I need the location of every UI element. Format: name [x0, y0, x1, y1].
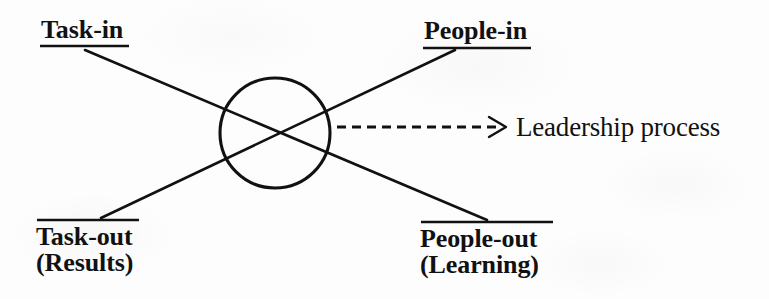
people-in-text: People-in: [424, 18, 527, 45]
task-out-text: Task-out: [36, 224, 133, 251]
leadership-process-label: Leadership process: [516, 112, 720, 143]
people-out-text: People-out: [420, 226, 539, 253]
connector-task-in-to-people-out: [85, 50, 487, 220]
connector-people-in-to-task-out: [101, 50, 455, 218]
node-label-people-out: People-out (Learning): [420, 226, 539, 278]
node-label-task-out: Task-out (Results): [36, 224, 133, 276]
node-label-people-in: People-in: [424, 18, 527, 45]
task-out-subtext: (Results): [36, 250, 133, 277]
node-label-task-in: Task-in: [41, 17, 123, 44]
center-circle: [220, 78, 330, 188]
task-in-text: Task-in: [41, 17, 123, 44]
people-out-subtext: (Learning): [420, 252, 539, 279]
diagram-canvas: Task-in People-in Task-out (Results) Peo…: [0, 0, 769, 299]
